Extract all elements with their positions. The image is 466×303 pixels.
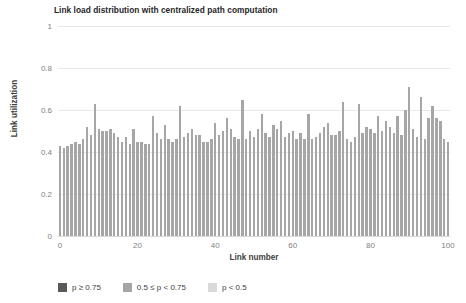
bar [222,131,224,236]
bar [443,139,445,236]
bar [396,116,398,236]
bar [385,121,387,237]
legend-swatch-icon [58,283,67,292]
bar [327,123,329,236]
legend-label: p < 0.5 [222,283,247,292]
bar [214,123,216,236]
bar [101,131,103,236]
bar [241,100,243,237]
bar [311,139,313,236]
bar [323,127,325,236]
bar [315,137,317,236]
bar [167,139,169,236]
bar [156,133,158,236]
bar [226,118,228,236]
bar [82,139,84,236]
bar [381,131,383,236]
bar-series [58,26,450,236]
bar [369,129,371,236]
bar [439,121,441,237]
bar [354,137,356,236]
bar [431,106,433,236]
bar [284,137,286,236]
bar [63,148,65,236]
bar [144,144,146,236]
bar [148,144,150,236]
bar [280,121,282,237]
bar [288,133,290,236]
bar [94,104,96,236]
bar [140,142,142,237]
bar [257,129,259,236]
chart-legend: p ≥ 0.750.5 ≤ p < 0.75p < 0.5 [58,283,269,292]
bar [338,131,340,236]
bar [160,139,162,236]
bar [121,142,123,237]
bar [303,139,305,236]
bar [125,137,127,236]
bar [377,116,379,236]
bar [86,127,88,236]
bar [90,135,92,236]
bar [152,116,154,236]
bar [435,118,437,236]
x-tick-label: 80 [366,241,375,250]
bar [420,97,422,236]
bar [261,114,263,236]
x-tick-label: 20 [133,241,142,250]
y-tick-label: 1 [2,22,52,31]
x-tick-label: 60 [288,241,297,250]
bar [416,137,418,236]
legend-label: 0.5 ≤ p < 0.75 [137,283,186,292]
bar [412,129,414,236]
bar [358,104,360,236]
x-axis-title: Link number [58,253,450,262]
legend-item[interactable]: 0.5 ≤ p < 0.75 [123,283,186,292]
bar [334,135,336,236]
bar [245,139,247,236]
bar [447,142,449,237]
bar [264,133,266,236]
bar [292,131,294,236]
bar [187,133,189,236]
bar [59,146,61,236]
plot-area [58,26,450,236]
bar [191,129,193,236]
y-tick-label: 0.6 [2,106,52,115]
bar [237,139,239,236]
bar [389,127,391,236]
bar [361,133,363,236]
bar [129,144,131,236]
bar [350,142,352,237]
y-tick-label: 0.4 [2,148,52,157]
bar [113,133,115,236]
bar [66,146,68,236]
legend-swatch-icon [208,283,217,292]
legend-item[interactable]: p ≥ 0.75 [58,283,101,292]
bar [330,135,332,236]
bar [78,144,80,236]
bar [233,137,235,236]
bar [404,110,406,236]
bar [427,118,429,236]
bar [276,129,278,236]
bar [230,129,232,236]
bar [218,135,220,236]
y-tick-label: 0.2 [2,190,52,199]
bar [365,127,367,236]
legend-label: p ≥ 0.75 [72,283,101,292]
bar [253,137,255,236]
bar [400,135,402,236]
y-tick-label: 0.8 [2,64,52,73]
bar [74,142,76,237]
x-tick-label: 100 [441,241,454,250]
y-axis-tick-labels: 00.20.40.60.81 [0,26,52,236]
bar [98,129,100,236]
bar [295,139,297,236]
bar [70,144,72,236]
bar [171,142,173,237]
bar [179,106,181,236]
x-tick-label: 0 [58,241,62,250]
legend-item[interactable]: p < 0.5 [208,283,247,292]
bar [183,137,185,236]
